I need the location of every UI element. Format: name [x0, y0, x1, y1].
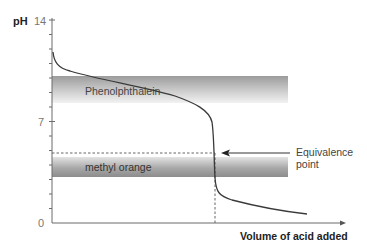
titration-chart: Phenolphthalein methyl orange pH 14 7 [0, 0, 367, 251]
y-tick-0: 0 [38, 217, 44, 229]
phenolphthalein-band: Phenolphthalein [52, 76, 288, 103]
annotation-line2: point [296, 158, 319, 170]
y-axis: pH 14 7 0 [13, 15, 55, 229]
y-axis-title: pH [13, 15, 28, 27]
annotation-line1: Equivalence [296, 146, 353, 158]
methyl-orange-label: methyl orange [85, 161, 152, 173]
x-axis-arrow-icon [340, 221, 346, 226]
phenolphthalein-label: Phenolphthalein [85, 85, 160, 97]
x-axis: Volume of acid added [52, 221, 348, 243]
y-tick-7: 7 [38, 116, 44, 128]
y-tick-14: 14 [34, 15, 46, 27]
methyl-orange-band: methyl orange [52, 157, 288, 177]
x-axis-title: Volume of acid added [240, 230, 348, 242]
